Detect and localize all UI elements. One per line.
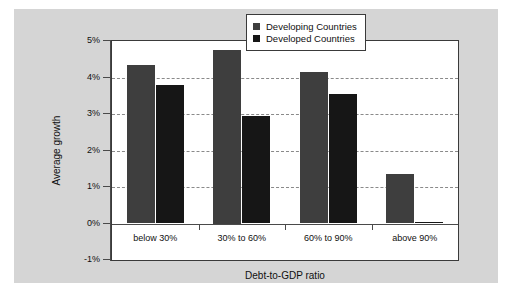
y-axis-tick-mark — [103, 223, 111, 224]
chart-figure: Average growth 5%4%3%2%1%0%-1% below 30%… — [0, 0, 512, 293]
y-axis-tick-mark — [103, 186, 111, 187]
y-axis-tick-mark — [103, 259, 111, 260]
legend-item: Developed Countries — [253, 33, 357, 44]
legend-label-developed: Developed Countries — [266, 33, 355, 44]
x-axis-category-label: 30% to 60% — [217, 233, 266, 243]
x-axis-title: Debt-to-GDP ratio — [111, 270, 459, 281]
legend-label-developing: Developing Countries — [266, 21, 357, 32]
bar-developed — [156, 85, 184, 224]
zero-baseline — [112, 224, 458, 225]
bar-developing — [213, 50, 241, 223]
bar-developed — [242, 116, 270, 224]
y-axis-title: Average growth — [50, 40, 64, 261]
legend-swatch-developed-icon — [253, 35, 260, 42]
y-axis-tick-label: 2% — [87, 145, 100, 155]
y-axis-tick-label: 0% — [87, 218, 100, 228]
plot-inner: below 30%30% to 60%60% to 90%above 90% — [112, 41, 458, 260]
legend-swatch-developing-icon — [253, 23, 260, 30]
x-axis-title-text: Debt-to-GDP ratio — [245, 270, 325, 281]
legend-item: Developing Countries — [253, 21, 357, 32]
bar-developed — [329, 94, 357, 224]
y-axis-title-text: Average growth — [52, 116, 63, 186]
bar-developing — [127, 65, 155, 224]
x-axis-category-label: above 90% — [392, 233, 437, 243]
chart-legend: Developing Countries Developed Countries — [246, 14, 366, 51]
y-axis-tick-label: 4% — [87, 72, 100, 82]
y-axis-tick-label: 5% — [87, 35, 100, 45]
y-axis-tick-label: -1% — [84, 254, 100, 264]
y-axis-tick-label: 1% — [87, 181, 100, 191]
x-axis-category-label: below 30% — [133, 233, 177, 243]
x-axis-category-label: 60% to 90% — [304, 233, 353, 243]
y-axis-tick-mark — [103, 150, 111, 151]
y-axis-tick-mark — [103, 113, 111, 114]
bar-developing — [300, 72, 328, 223]
y-axis-tick-mark — [103, 77, 111, 78]
figure-panel: Average growth 5%4%3%2%1%0%-1% below 30%… — [14, 9, 498, 283]
y-axis-tick-label: 3% — [87, 108, 100, 118]
bar-developing — [386, 174, 414, 223]
plot-area: below 30%30% to 60%60% to 90%above 90% — [111, 40, 459, 261]
gridline — [112, 78, 458, 79]
y-axis-tick-mark — [103, 40, 111, 41]
